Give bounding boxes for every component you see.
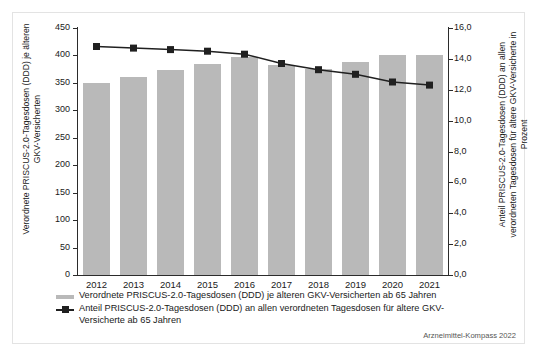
y-tick-left xyxy=(73,138,77,139)
y-tick-left xyxy=(73,248,77,249)
y-tick-left xyxy=(73,220,77,221)
y-tick-label-right: 16,0 xyxy=(454,23,488,32)
y-tick-right xyxy=(449,275,453,276)
chart-figure: Verordnete PRISCUS-2.0-Tagesdosen (DDD) … xyxy=(0,0,538,361)
y-tick-label-left: 250 xyxy=(36,133,70,142)
y-tick-label-right: 4,0 xyxy=(454,208,488,217)
x-tick-label: 2019 xyxy=(336,279,376,290)
y-tick-label-right: 10,0 xyxy=(454,116,488,125)
y-axis-left-line xyxy=(77,27,78,276)
x-tick-label: 2021 xyxy=(410,279,450,290)
y-tick-right xyxy=(449,90,453,91)
y-tick-right xyxy=(449,213,453,214)
y-tick-left xyxy=(73,275,77,276)
x-tick-label: 2017 xyxy=(262,279,302,290)
y-tick-right xyxy=(449,182,453,183)
legend-label-line: Anteil PRISCUS-2.0-Tagesdosen (DDD) an a… xyxy=(79,303,486,326)
legend-item-line: Anteil PRISCUS-2.0-Tagesdosen (DDD) an a… xyxy=(56,303,486,326)
y-tick-label-left: 0 xyxy=(36,270,70,279)
x-tick-label: 2016 xyxy=(225,279,265,290)
y-tick-left xyxy=(73,28,77,29)
y-tick-label-left: 200 xyxy=(36,160,70,169)
x-tick-label: 2012 xyxy=(77,279,117,290)
bar xyxy=(379,55,406,275)
y-tick-label-left: 450 xyxy=(36,23,70,32)
bar xyxy=(83,83,110,275)
y-tick-label-left: 400 xyxy=(36,50,70,59)
bar xyxy=(305,69,332,275)
source-credit: Arzneimittel-Kompass 2022 xyxy=(423,331,516,340)
bar xyxy=(416,55,443,275)
y-tick-label-right: 12,0 xyxy=(454,85,488,94)
y-tick-label-right: 6,0 xyxy=(454,177,488,186)
chart-legend: Verordnete PRISCUS-2.0-Tagesdosen (DDD) … xyxy=(56,290,486,327)
y-tick-left xyxy=(73,83,77,84)
x-tick-label: 2015 xyxy=(188,279,228,290)
y-tick-label-left: 300 xyxy=(36,105,70,114)
y-tick-label-right: 0,0 xyxy=(454,270,488,279)
y-tick-right xyxy=(449,244,453,245)
y-tick-right xyxy=(449,152,453,153)
y-tick-label-right: 2,0 xyxy=(454,239,488,248)
bar xyxy=(194,64,221,275)
y-tick-label-left: 150 xyxy=(36,188,70,197)
y-tick-right xyxy=(449,59,453,60)
y-tick-label-right: 14,0 xyxy=(454,54,488,63)
y-tick-label-left: 50 xyxy=(36,243,70,252)
legend-item-bars: Verordnete PRISCUS-2.0-Tagesdosen (DDD) … xyxy=(56,290,486,302)
y-axis-right-title: Anteil PRISCUS-2.0-Tagesdosen (DDD) an a… xyxy=(497,20,530,250)
x-tick-label: 2013 xyxy=(114,279,154,290)
y-tick-label-left: 350 xyxy=(36,78,70,87)
legend-label-bars: Verordnete PRISCUS-2.0-Tagesdosen (DDD) … xyxy=(79,290,486,302)
bar xyxy=(342,62,369,275)
x-tick-label: 2014 xyxy=(151,279,191,290)
y-tick-right xyxy=(449,121,453,122)
y-tick-right xyxy=(449,28,453,29)
y-tick-label-left: 100 xyxy=(36,215,70,224)
y-tick-left xyxy=(73,165,77,166)
x-tick-label: 2020 xyxy=(373,279,413,290)
y-axis-left-title: Verordnete PRISCUS-2.0-Tagesdosen (DDD) … xyxy=(21,14,43,244)
bar xyxy=(231,57,258,275)
x-tick-label: 2018 xyxy=(299,279,339,290)
line-marker-icon xyxy=(56,304,74,315)
y-tick-left xyxy=(73,110,77,111)
y-tick-label-right: 8,0 xyxy=(454,147,488,156)
y-tick-left xyxy=(73,55,77,56)
bar-swatch-icon xyxy=(56,291,74,302)
x-axis-line xyxy=(77,275,449,276)
bar xyxy=(268,65,295,275)
y-tick-left xyxy=(73,193,77,194)
bar xyxy=(120,77,147,275)
bar xyxy=(157,70,184,275)
